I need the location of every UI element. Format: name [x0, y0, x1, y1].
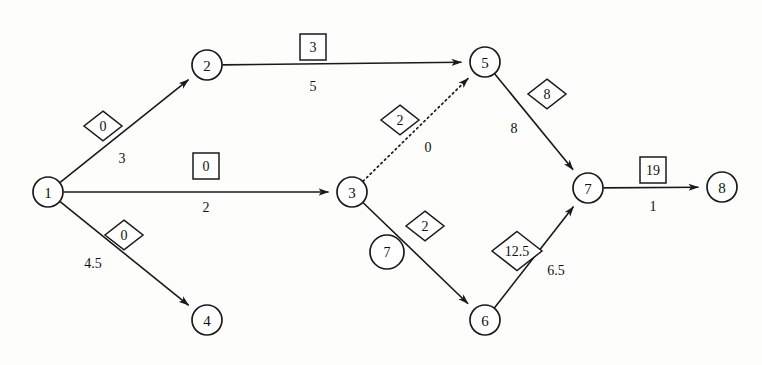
flow-value-1-4: 0	[121, 228, 128, 243]
edge-markers-layer: 030204.53520278812.56.5191	[84, 34, 666, 278]
nodes-layer: 12345678	[33, 47, 737, 335]
node-label-5: 5	[481, 55, 489, 71]
node-label-2: 2	[203, 58, 211, 74]
node-3[interactable]: 3	[337, 177, 367, 207]
edge-5-to-7	[495, 74, 573, 170]
node-1[interactable]: 1	[33, 177, 63, 207]
edge-1-to-4	[60, 202, 189, 306]
cost-value-1-4: 4.5	[84, 256, 102, 271]
node-7[interactable]: 7	[573, 173, 603, 203]
flow-value-1-2: 0	[100, 119, 107, 134]
edge-marker-7-8: 191	[640, 157, 666, 214]
cost-value-2-5: 5	[310, 79, 317, 94]
edge-2-to-5	[222, 62, 461, 65]
cost-value-6-7: 6.5	[547, 263, 565, 278]
node-label-4: 4	[203, 313, 211, 329]
network-diagram: 030204.53520278812.56.5191 12345678	[0, 0, 762, 365]
network-diagram-canvas: 030204.53520278812.56.5191 12345678	[0, 0, 762, 365]
edge-marker-6-7: 12.56.5	[492, 232, 565, 279]
node-label-7: 7	[584, 181, 592, 197]
edge-marker-1-3: 02	[193, 153, 219, 215]
node-2[interactable]: 2	[192, 50, 222, 80]
node-label-3: 3	[348, 185, 356, 201]
cost-value-3-5: 0	[425, 140, 432, 155]
edge-1-to-2	[60, 80, 189, 183]
cost-value-1-2: 3	[119, 151, 126, 166]
node-label-6: 6	[481, 313, 489, 329]
flow-value-3-5: 2	[397, 113, 404, 128]
node-6[interactable]: 6	[470, 305, 500, 335]
flow-value-1-3: 0	[203, 159, 210, 174]
edge-7-to-8	[603, 187, 698, 188]
node-5[interactable]: 5	[470, 47, 500, 77]
cost-value-1-3: 2	[203, 200, 210, 215]
cost-value-3-6: 7	[384, 245, 391, 260]
edge-3-to-5	[363, 78, 468, 181]
edge-marker-3-5: 20	[381, 105, 432, 155]
flow-value-5-7: 8	[544, 87, 551, 102]
node-4[interactable]: 4	[192, 305, 222, 335]
node-label-8: 8	[718, 180, 726, 196]
node-8[interactable]: 8	[707, 172, 737, 202]
flow-value-2-5: 3	[310, 40, 317, 55]
cost-value-7-8: 1	[650, 199, 657, 214]
flow-value-7-8: 19	[646, 163, 660, 178]
flow-value-3-6: 2	[422, 219, 429, 234]
node-label-1: 1	[44, 185, 52, 201]
flow-value-6-7: 12.5	[505, 244, 530, 259]
cost-value-5-7: 8	[511, 121, 518, 136]
